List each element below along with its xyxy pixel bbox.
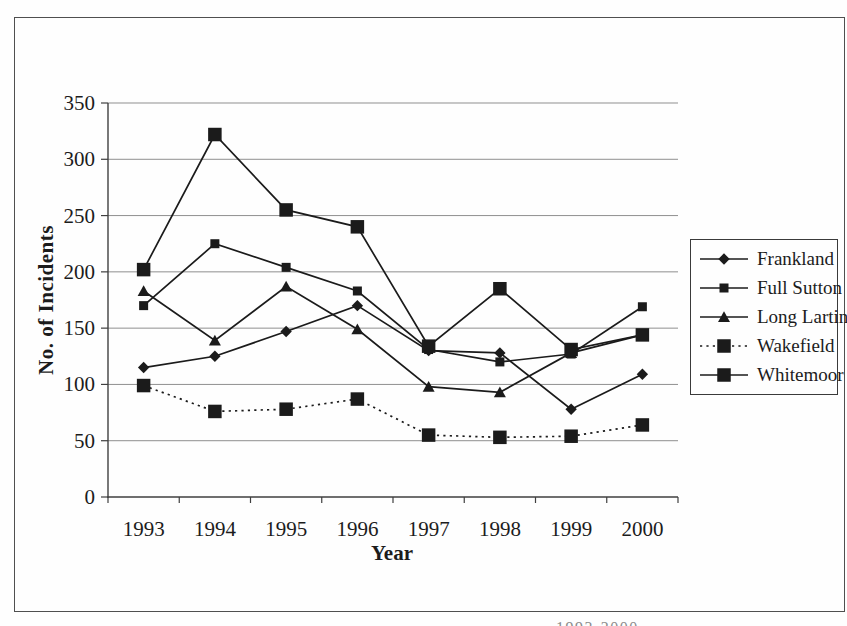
legend-label: Wakefield [757, 335, 835, 357]
x-tick-label: 1993 [123, 517, 165, 541]
legend-label: Whitemoor [757, 364, 844, 386]
legend-item-wakefield: Wakefield [698, 335, 835, 357]
legend: FranklandFull SuttonLong LartinWakefield… [690, 239, 838, 395]
y-tick-label: 150 [64, 316, 96, 340]
scanned-chart-page: 0501001502002503003501993199419951996199… [0, 0, 847, 626]
gridlines [108, 103, 678, 441]
x-tick-label: 2000 [621, 517, 663, 541]
y-tick-label: 350 [64, 91, 96, 115]
legend-item-long-lartin: Long Lartin [698, 306, 835, 328]
x-tick-label: 1996 [336, 517, 378, 541]
legend-label: Long Lartin [757, 306, 847, 328]
x-tick-label: 1999 [550, 517, 592, 541]
legend-marker-square-large-icon [698, 366, 750, 384]
x-tick-label: 1995 [265, 517, 307, 541]
y-tick-label: 300 [64, 147, 96, 171]
legend-marker-triangle-icon [698, 308, 750, 326]
legend-label: Frankland [757, 248, 834, 270]
x-axis-title: Year [371, 541, 413, 566]
legend-marker-square-small-icon [698, 279, 750, 297]
tick-labels: 0501001502002503003501993199419951996199… [64, 91, 664, 541]
y-tick-label: 250 [64, 204, 96, 228]
y-tick-label: 100 [64, 372, 96, 396]
legend-item-frankland: Frankland [698, 248, 835, 270]
legend-label: Full Sutton [757, 277, 842, 299]
x-tick-label: 1997 [408, 517, 450, 541]
x-tick-label: 1998 [479, 517, 521, 541]
x-tick-label: 1994 [194, 517, 237, 541]
y-axis-title: No. of Incidents [34, 225, 59, 375]
axes [101, 103, 678, 503]
legend-item-full-sutton: Full Sutton [698, 277, 835, 299]
series-long-lartin [138, 281, 649, 398]
legend-marker-square-large-icon [698, 337, 750, 355]
legend-item-whitemoor: Whitemoor [698, 364, 835, 386]
legend-marker-diamond-icon [698, 250, 750, 268]
y-tick-label: 50 [74, 429, 95, 453]
y-tick-label: 0 [85, 485, 96, 509]
caption-fragment: 1993-2000 [556, 619, 639, 626]
y-tick-label: 200 [64, 260, 96, 284]
